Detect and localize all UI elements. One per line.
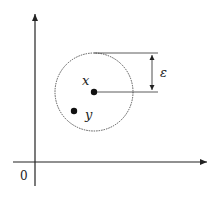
point-y	[71, 108, 77, 114]
epsilon-ball-diagram: x y ε 0	[0, 0, 216, 197]
center-label: x	[82, 73, 90, 88]
epsilon-label: ε	[160, 65, 167, 80]
center-point-x	[91, 89, 97, 95]
origin-label: 0	[20, 169, 28, 183]
point-label: y	[84, 107, 93, 122]
